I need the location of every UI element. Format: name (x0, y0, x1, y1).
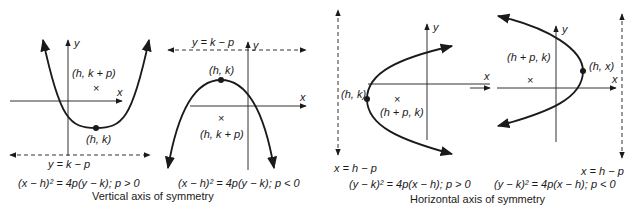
x-axis-label: x (611, 73, 618, 85)
vertex-dot (218, 77, 224, 83)
vertex-dot (93, 125, 99, 131)
focus-marker: × (218, 112, 224, 124)
parabola-curve (367, 46, 452, 154)
focus-marker: × (527, 74, 533, 86)
x-axis-label: x (299, 91, 306, 103)
vertex-label: (h, x) (589, 60, 614, 72)
y-axis-label: y (252, 39, 260, 51)
directrix-label: x = h − p (333, 162, 377, 174)
x-axis-label: x (116, 86, 123, 98)
focus-marker: × (394, 93, 400, 105)
focus-label: (h, k + p) (72, 67, 116, 79)
vertex-label: (h, k) (209, 64, 234, 76)
y-axis-label: y (432, 21, 440, 33)
vertex-label: (h, k) (341, 88, 366, 100)
equation: (y − k)² = 4p(x − h); p < 0 (494, 178, 617, 190)
caption-horizontal: Horizontal axis of symmetry (410, 193, 546, 205)
equation: (x − h)² = 4p(y − k); p < 0 (178, 177, 301, 189)
panel-vertical-down: y = k − p y x (h, k) × (h, k + p) (x − h… (168, 36, 306, 189)
focus-label: (h + p, k) (380, 106, 424, 118)
x-axis-label-left: x (483, 70, 490, 82)
parabola-curve (498, 16, 583, 126)
y-axis-label: y (73, 37, 81, 49)
directrix-label: x = h − p (580, 165, 624, 177)
panel-horizontal-right: x = h − p y (h, k) × (h + p, k) (y − k)²… (333, 10, 490, 190)
vertex-dot (580, 68, 586, 74)
y-axis-label: y (561, 23, 569, 35)
directrix-label: y = k − p (47, 158, 90, 170)
panel-horizontal-left: y x x (h, x) × (h + p, k) x = h − p (y −… (470, 14, 624, 190)
parabola-curve (168, 80, 274, 168)
equation: (y − k)² = 4p(x − h); p > 0 (349, 178, 472, 190)
focus-marker: × (93, 82, 99, 94)
caption-vertical: Vertical axis of symmetry (92, 190, 214, 202)
panel-vertical-up: y x (h, k + p) × (h, k) y = k − p (x − h… (10, 37, 150, 189)
vertex-label: (h, k) (86, 133, 111, 145)
parabola-diagram: y x (h, k + p) × (h, k) y = k − p (x − h… (0, 0, 636, 213)
directrix-label: y = k − p (191, 36, 234, 48)
equation: (x − h)² = 4p(y − k); p > 0 (18, 177, 141, 189)
focus-label: (h, k + p) (200, 128, 244, 140)
focus-label: (h + p, k) (507, 51, 551, 63)
